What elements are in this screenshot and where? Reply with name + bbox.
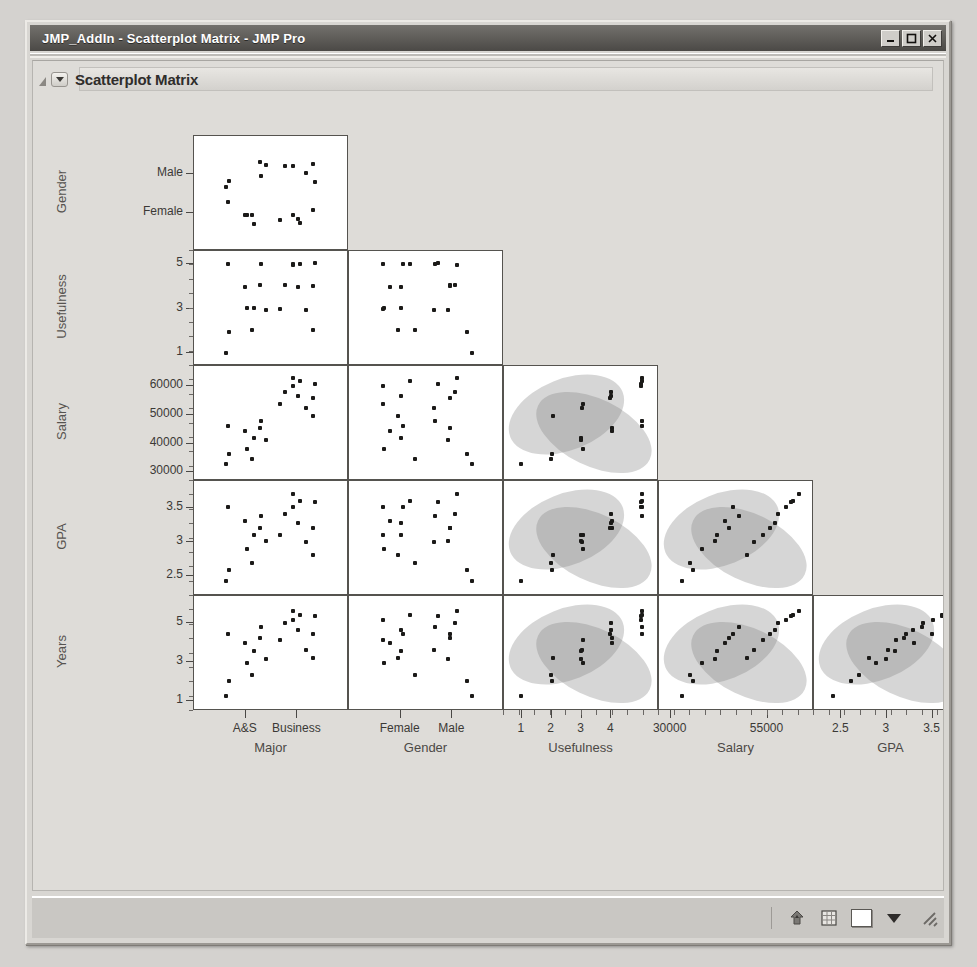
y-tick-label: 60000 (88, 377, 183, 391)
y-minor-tick (189, 322, 193, 323)
y-tick-label: 3 (88, 533, 183, 547)
data-point (291, 164, 295, 168)
matrix-cell[interactable] (348, 365, 503, 480)
data-point (519, 462, 523, 466)
minimize-button[interactable] (881, 30, 900, 47)
popup-menu-icon[interactable] (51, 72, 68, 87)
data-point (291, 376, 295, 380)
y-tick-label: 5 (88, 255, 183, 269)
data-point (609, 521, 613, 525)
data-point (700, 661, 704, 665)
resize-grip-icon[interactable] (920, 909, 938, 927)
y-minor-tick (189, 653, 193, 654)
data-point (436, 261, 440, 265)
data-point (226, 424, 230, 428)
data-point (388, 519, 392, 523)
data-point (831, 694, 835, 698)
data-point (609, 621, 613, 625)
x-minor-tick (658, 710, 659, 715)
y-tick-label: 1 (88, 692, 183, 706)
data-point (580, 540, 584, 544)
data-point (243, 641, 247, 645)
data-point (278, 307, 282, 311)
data-point (311, 396, 315, 400)
y-minor-tick (189, 595, 193, 596)
x-minor-tick (906, 710, 907, 715)
row-axis-label-gpa: GPA (54, 479, 69, 594)
data-table-icon[interactable] (818, 907, 840, 929)
data-point (727, 526, 731, 530)
home-up-arrow-icon[interactable] (786, 907, 808, 929)
matrix-cell[interactable] (193, 595, 348, 710)
matrix-cell[interactable] (193, 135, 348, 250)
data-point (610, 429, 614, 433)
title-bar[interactable]: JMP_AddIn - Scatterplot Matrix - JMP Pro (30, 25, 946, 51)
data-point (432, 406, 436, 410)
data-point (791, 499, 795, 503)
column-axis-label-salary: Salary (658, 740, 813, 755)
matrix-cell[interactable] (193, 480, 348, 595)
color-swatch[interactable] (851, 909, 872, 927)
data-point (226, 505, 230, 509)
maximize-button[interactable] (902, 30, 921, 47)
data-point (291, 618, 295, 622)
data-point (381, 505, 385, 509)
x-tick-label: 30000 (630, 721, 710, 735)
data-point (608, 632, 612, 636)
data-point (243, 519, 247, 523)
matrix-cell[interactable] (658, 595, 813, 710)
y-minor-tick (189, 681, 193, 682)
data-point (226, 262, 230, 266)
matrix-cell[interactable] (193, 365, 348, 480)
close-button[interactable] (923, 30, 942, 47)
data-point (250, 673, 254, 677)
data-point (278, 638, 282, 642)
x-minor-tick (519, 710, 520, 715)
data-point (381, 533, 385, 537)
x-tick-label: Male (411, 721, 491, 735)
data-point (399, 285, 403, 289)
x-minor-tick (612, 710, 613, 715)
disclosure-triangle-icon[interactable] (39, 77, 46, 86)
y-tick-label: Female (88, 204, 183, 218)
data-point (313, 500, 317, 504)
x-tick-mark (245, 710, 246, 718)
matrix-cell[interactable] (503, 480, 658, 595)
x-minor-tick (891, 710, 892, 715)
matrix-cell[interactable] (348, 250, 503, 365)
data-point (388, 285, 392, 289)
matrix-cell[interactable] (813, 595, 944, 710)
x-tick-mark (521, 710, 522, 718)
y-tick-mark (186, 700, 193, 701)
data-point (388, 641, 392, 645)
matrix-cell[interactable] (658, 480, 813, 595)
data-point (886, 648, 890, 652)
data-point (243, 285, 247, 289)
x-minor-tick (534, 710, 535, 715)
data-point (291, 213, 295, 217)
y-minor-tick (189, 264, 193, 265)
title-separator (30, 53, 946, 58)
data-point (245, 306, 249, 310)
matrix-cell[interactable] (503, 365, 658, 480)
y-minor-tick (189, 638, 193, 639)
data-point (227, 568, 231, 572)
data-point (227, 179, 231, 183)
matrix-cell[interactable] (348, 595, 503, 710)
data-point (313, 261, 317, 265)
data-point (298, 221, 302, 225)
matrix-cell[interactable] (348, 480, 503, 595)
data-point (579, 657, 583, 661)
data-point (893, 649, 897, 653)
data-point (640, 625, 644, 629)
chevron-down-icon[interactable] (887, 914, 901, 923)
y-minor-tick (189, 523, 193, 524)
data-point (382, 447, 386, 451)
data-point (640, 379, 644, 383)
matrix-cell[interactable] (193, 250, 348, 365)
data-point (304, 648, 308, 652)
data-point (455, 263, 459, 267)
y-minor-tick (189, 710, 193, 711)
matrix-cell[interactable] (503, 595, 658, 710)
data-point (446, 657, 450, 661)
